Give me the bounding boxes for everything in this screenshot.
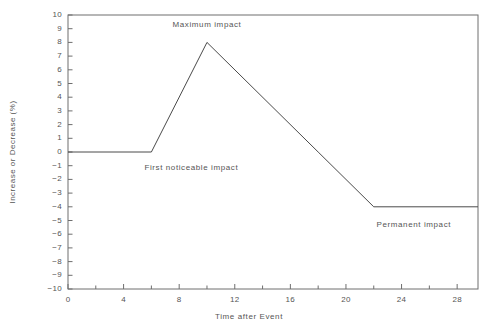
x-tick-label: 8	[169, 295, 189, 304]
y-tick-label: 7	[34, 51, 62, 60]
y-tick-label: −7	[34, 243, 62, 252]
y-tick-label: 4	[34, 92, 62, 101]
y-tick-label: −5	[34, 216, 62, 225]
x-tick-label: 24	[392, 295, 412, 304]
y-tick-label: 5	[34, 79, 62, 88]
chart-annotation: First noticeable impact	[144, 163, 238, 172]
x-tick-label: 12	[225, 295, 245, 304]
y-tick-label: 1	[34, 133, 62, 142]
y-tick-label: −2	[34, 174, 62, 183]
y-axis-title: Increase or Decrease (%)	[8, 100, 17, 203]
y-tick-label: −1	[34, 161, 62, 170]
y-tick-label: −3	[34, 188, 62, 197]
y-tick-label: 6	[34, 65, 62, 74]
chart-figure: Increase or Decrease (%) 0481216202428 1…	[0, 0, 487, 331]
y-tick-label: 3	[34, 106, 62, 115]
impact-line-chart: Increase or Decrease (%)	[0, 0, 487, 331]
y-tick-label: −6	[34, 229, 62, 238]
chart-annotation: Maximum impact	[0, 20, 414, 29]
chart-annotation: Permanent impact	[377, 220, 452, 229]
x-axis-title: Time after Event	[215, 312, 283, 321]
x-tick-label: 16	[280, 295, 300, 304]
y-tick-label: 10	[34, 10, 62, 19]
y-tick-label: 0	[34, 147, 62, 156]
x-tick-label: 0	[58, 295, 78, 304]
y-tick-label: −9	[34, 270, 62, 279]
y-tick-label: −10	[34, 284, 62, 293]
x-tick-label: 28	[447, 295, 467, 304]
chart-background	[0, 0, 487, 331]
y-tick-label: −8	[34, 257, 62, 266]
y-tick-label: −4	[34, 202, 62, 211]
y-tick-label: 2	[34, 120, 62, 129]
x-tick-label: 20	[336, 295, 356, 304]
y-tick-label: 8	[34, 37, 62, 46]
x-tick-label: 4	[114, 295, 134, 304]
